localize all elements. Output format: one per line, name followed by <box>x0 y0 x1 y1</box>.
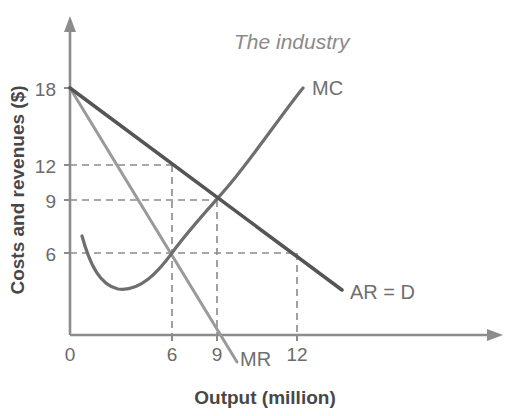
y-axis-title: Costs and revenues ($) <box>7 85 28 294</box>
x-tick-label-0: 0 <box>65 344 76 365</box>
x-axis-arrowhead <box>487 329 503 341</box>
economics-chart-canvas: 18 12 9 6 0 6 9 12 MC MR AR = D The indu… <box>0 0 523 416</box>
dashed-guides-group <box>70 165 297 335</box>
mc-curve-label: MC <box>312 77 343 99</box>
mr-curve-label: MR <box>240 348 271 370</box>
chart-figure: 18 12 9 6 0 6 9 12 MC MR AR = D The indu… <box>0 0 523 416</box>
y-tick-label-18: 18 <box>35 79 56 100</box>
y-tick-label-6: 6 <box>45 244 56 265</box>
mc-curve <box>82 88 303 289</box>
y-tick-label-9: 9 <box>45 191 56 212</box>
y-tick-label-12: 12 <box>35 156 56 177</box>
y-axis-arrowhead <box>64 16 76 32</box>
x-tick-label-6: 6 <box>167 344 178 365</box>
chart-title: The industry <box>234 30 351 53</box>
ar-d-curve <box>70 88 342 290</box>
x-axis-title: Output (million) <box>194 387 335 408</box>
axes-group <box>64 16 503 341</box>
mr-curve <box>70 88 237 362</box>
x-tick-label-9: 9 <box>212 344 223 365</box>
x-tick-label-12: 12 <box>286 344 307 365</box>
ar-d-curve-label: AR = D <box>350 281 415 303</box>
